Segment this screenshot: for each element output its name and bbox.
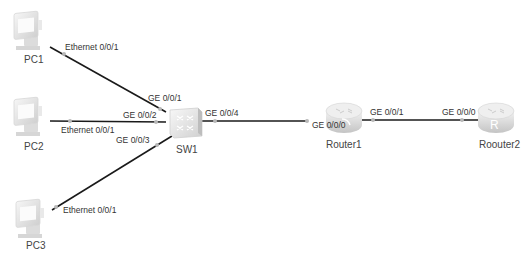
device-label-sw1: SW1 <box>176 144 198 155</box>
device-label-pc2: PC2 <box>24 141 44 152</box>
port-label-pc2: Ethernet 0/0/1 <box>61 125 115 135</box>
port-dot <box>68 119 72 123</box>
port-dot <box>460 118 464 122</box>
port-label-pc3: Ethernet 0/0/1 <box>63 205 117 215</box>
pc-icon <box>14 97 42 136</box>
port-label-sw1-ge4: GE 0/0/4 <box>205 108 239 118</box>
port-dot <box>305 119 309 123</box>
device-label-router1: Router1 <box>326 139 362 150</box>
port-label-sw1-ge3: GE 0/0/3 <box>116 135 150 145</box>
link-pc2-sw1[interactable] <box>50 121 166 122</box>
device-pc2[interactable] <box>14 97 42 136</box>
port-label-pc1: Ethernet 0/0/1 <box>65 42 119 52</box>
port-dot <box>213 119 217 123</box>
pc-icon <box>16 199 44 238</box>
device-router2[interactable]: R <box>478 103 514 133</box>
topology-canvas: PC1 PC2 PC3 SW1 <box>0 0 530 260</box>
device-pc3[interactable] <box>16 199 44 238</box>
pc-icon <box>14 11 42 50</box>
port-dot <box>54 205 58 209</box>
port-label-router1-ge0: GE 0/0/0 <box>312 120 346 130</box>
port-dots <box>54 52 464 209</box>
device-sw1[interactable] <box>170 108 202 138</box>
device-pc1[interactable] <box>14 11 42 50</box>
port-label-router1-ge1: GE 0/0/1 <box>370 107 404 117</box>
device-label-pc3: PC3 <box>26 240 46 251</box>
port-dot <box>371 118 375 122</box>
port-dot <box>158 107 162 111</box>
device-label-router2: Roouter2 <box>479 139 521 150</box>
link-pc3-sw1[interactable] <box>52 136 172 210</box>
port-dot <box>62 52 66 56</box>
port-dot <box>154 120 158 124</box>
switch-icon <box>170 108 202 138</box>
svg-text:R: R <box>490 118 499 132</box>
port-dot <box>155 143 159 147</box>
device-label-pc1: PC1 <box>24 54 44 65</box>
port-label-sw1-ge1: GE 0/0/1 <box>148 93 182 103</box>
port-label-router2-ge0: GE 0/0/0 <box>442 107 476 117</box>
router-icon: R <box>478 103 514 133</box>
port-label-sw1-ge2: GE 0/0/2 <box>123 110 157 120</box>
